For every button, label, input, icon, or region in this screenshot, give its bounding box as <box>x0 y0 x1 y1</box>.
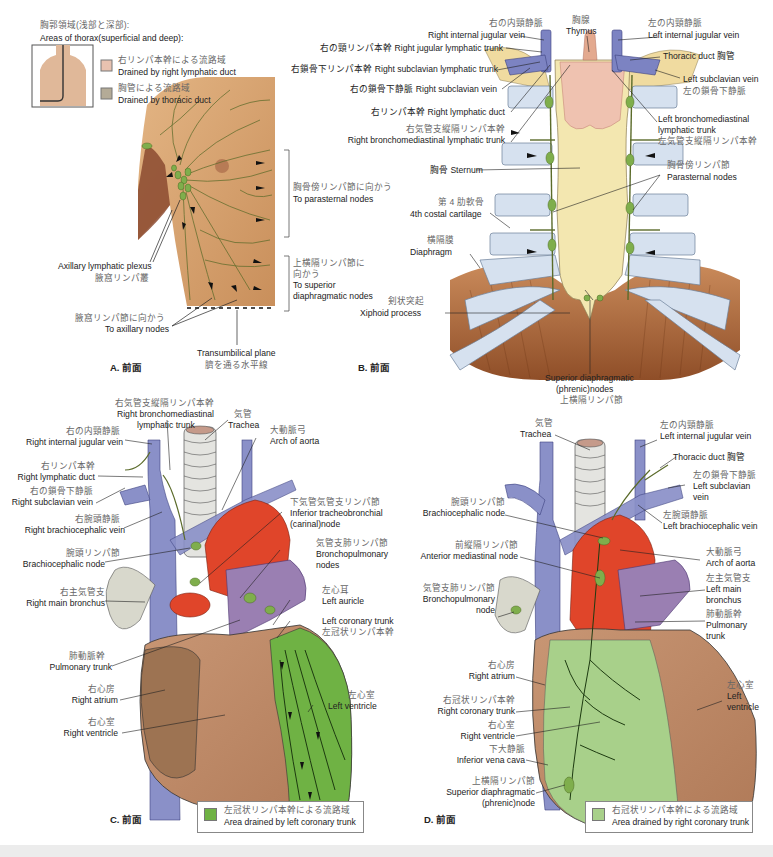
right-subclavian-vein: 右の鎖骨下静脈 Right subclavian vein <box>320 84 497 95</box>
right-coronary-legend-jp: 右冠状リンパ本幹による流路域 <box>612 805 738 816</box>
c-trachea-jp: 気管 <box>234 409 252 420</box>
axillary-nodes-dir-jp: 腋窩リンパ節に向かう <box>75 313 165 324</box>
panel-c-drawing <box>96 420 352 820</box>
c-brachioceph-node-en: Brachiocephalic node <box>5 559 105 570</box>
c-right-lymph-duct-jp: 右リンパ本幹 <box>30 461 95 472</box>
c-left-ventricle-jp: 左心室 <box>348 690 375 701</box>
left-int-jugular-en: Left internal jugular vein <box>648 30 739 41</box>
c-right-int-jugular-en: Right internal jugular vein <box>5 437 123 448</box>
d-brachioceph-node-jp: 腕頭リンパ節 <box>420 497 505 508</box>
sup-diaphragmatic-dir-en1: To superior <box>293 280 336 291</box>
c-right-bronchomed-jp: 右気管支縦隔リンパ本幹 <box>115 398 214 409</box>
d-thoracic-duct: Thoracic duct 胸管 <box>673 452 745 463</box>
d-sup-phrenic-jp: 上横隔リンパ節 <box>455 776 535 787</box>
c-pulm-trunk-en: Pulmonary trunk <box>5 662 112 673</box>
c-right-bronchomed-en2: lymphatic trunk <box>137 420 195 431</box>
d-sup-phrenic-en2: (phrenic)node <box>415 798 535 809</box>
parasternal-dir-jp: 胸骨傍リンパ節に向かう <box>293 182 392 193</box>
c-right-subclavian-jp: 右の鎖骨下静脈 <box>20 486 93 497</box>
c-right-int-jugular-jp: 右の内頸静脈 <box>40 426 120 437</box>
c-inf-tracheo-en1: Inferior tracheobronchial <box>290 508 383 519</box>
panel-a-caption: A. 前面 <box>110 360 142 374</box>
d-left-subclavian-jp: 左の鎖骨下静脈 <box>693 470 756 481</box>
right-coronary-swatch <box>592 808 605 821</box>
c-brachioceph-node-jp: 腕頭リンパ節 <box>40 548 120 559</box>
thymus-jp: 胸腺 <box>572 15 590 26</box>
d-left-int-jugular-en: Left internal jugular vein <box>660 431 751 442</box>
axillary-plexus-label-en: Axillary lymphatic plexus <box>58 261 152 272</box>
c-inf-tracheo-jp: 下気管気管支リンパ節 <box>290 497 380 508</box>
c-right-atrium-en: Right atrium <box>30 695 118 706</box>
c-left-ventricle-en: Left ventricle <box>328 701 377 712</box>
d-right-coronary-en: Right coronary trunk <box>400 706 515 717</box>
d-left-main-bronchus-en1: Left main <box>706 584 741 595</box>
c-left-coronary-en: Left coronary trunk <box>322 616 394 627</box>
legend-right-duct-jp: 右リンパ本幹による流路域 <box>118 55 226 66</box>
d-left-int-jugular-jp: 左の内頸静脈 <box>660 420 714 431</box>
c-right-brachioceph-jp: 右腕頭静脈 <box>40 514 120 525</box>
left-coronary-legend-en: Area drained by left coronary trunk <box>224 817 356 828</box>
axillary-plexus-label-jp: 腋窩リンパ叢 <box>95 273 149 284</box>
thoracic-duct-b: Thoracic duct 胸管 <box>663 51 735 62</box>
parasternal-nodes-en: Parasternal nodes <box>667 172 737 183</box>
panel-b-caption: B. 前面 <box>358 360 390 374</box>
left-bronchomed-en2: lymphatic trunk <box>658 125 716 136</box>
c-inf-tracheo-en2: (carinal)node <box>290 519 340 530</box>
c-bronchopulm-en1: Bronchopulmonary <box>316 549 388 560</box>
diaphragm-en: Diaphragm <box>410 247 452 258</box>
d-ivc-en: Inferior vena cava <box>415 755 525 766</box>
left-coronary-swatch <box>204 808 217 821</box>
superior-phrenic-en2: (phrenic)nodes <box>556 384 613 395</box>
left-subclavian-en: Left subclavian vein <box>683 74 758 85</box>
d-ant-med-en: Anterior mediastinal node <box>390 551 518 562</box>
c-pulm-trunk-jp: 肺動脈幹 <box>45 651 105 662</box>
right-int-jugular-en: Right internal jugular vein <box>405 30 525 41</box>
d-right-ventricle-en: Right ventricle <box>415 731 515 742</box>
panel-c-caption: C. 前面 <box>110 812 142 826</box>
c-right-bronchomed-en1: Right bronchomediastinal <box>117 409 214 420</box>
left-coronary-legend: 左冠状リンパ本幹による流路域 Area drained by left coro… <box>197 801 364 833</box>
c-right-brachioceph-en: Right brachiocephalic vein <box>5 525 125 536</box>
d-left-main-bronchus-en2: bronchus <box>706 595 741 606</box>
left-bronchomed-en1: Left bronchomediastinal <box>658 114 749 125</box>
legend-thoracic-duct-en: Drained by thoracic duct <box>118 95 211 106</box>
sup-diaphragmatic-dir-jp2: 向かう <box>293 269 320 280</box>
right-jugular-trunk: 右の頸リンパ本幹 Right jugular lymphatic trunk <box>305 43 503 54</box>
transumbilical-jp: 臍を通る水平線 <box>205 360 268 371</box>
d-bronchopulm-jp: 気管支肺リンパ節 <box>410 583 495 594</box>
left-bronchomed-jp: 左気管支縦隔リンパ本幹 <box>658 136 757 147</box>
d-right-atrium-en: Right atrium <box>425 671 515 682</box>
left-int-jugular-jp: 左の内頸静脈 <box>648 18 702 29</box>
d-brachioceph-node-en: Brachiocephalic node <box>400 508 505 519</box>
d-right-coronary-jp: 右冠状リンパ本幹 <box>420 695 515 706</box>
d-bronchopulm-en1: Bronchopulmonary <box>410 594 495 605</box>
left-coronary-legend-jp: 左冠状リンパ本幹による流路域 <box>224 805 350 816</box>
d-trachea-en: Trachea <box>520 429 551 440</box>
d-left-ventricle-en1: Left <box>727 691 741 702</box>
legend-thoracic-duct-jp: 胸管による流路域 <box>118 83 190 94</box>
right-coronary-legend-en: Area drained by right coronary trunk <box>612 817 749 828</box>
c-bronchopulm-en2: nodes <box>316 560 339 571</box>
right-int-jugular-jp: 右の内頸静脈 <box>455 18 543 29</box>
d-arch-aorta-en: Arch of aorta <box>706 558 755 569</box>
c-right-ventricle-jp: 右心室 <box>60 717 115 728</box>
right-subclavian-trunk: 右鎖骨下リンパ本幹 Right subclavian lymphatic tru… <box>260 64 498 75</box>
d-trachea-jp: 気管 <box>535 418 553 429</box>
c-left-auricle-jp: 左心耳 <box>322 585 349 596</box>
d-left-subclavian-en2: vein <box>693 492 709 503</box>
xiphoid-en: Xiphoid process <box>360 308 421 319</box>
xiphoid-jp: 剣状突起 <box>388 296 424 307</box>
panel-d-caption: D. 前面 <box>424 812 456 826</box>
d-right-atrium-jp: 右心房 <box>455 660 515 671</box>
page-footer-bar <box>0 845 773 857</box>
c-arch-aorta-en: Arch of aorta <box>270 436 319 447</box>
c-right-main-bronchus-jp: 右主気管支 <box>45 587 105 598</box>
sup-diaphragmatic-dir-jp1: 上横隔リンパ節に <box>293 258 365 269</box>
diaphragm-jp: 横隔膜 <box>427 235 454 246</box>
costal-cartilage-jp: 第 4 肋軟骨 <box>438 197 484 208</box>
right-coronary-legend: 右冠状リンパ本幹による流路域 Area drained by right cor… <box>585 801 753 833</box>
c-right-subclavian-en: Right subclavian vein <box>5 497 93 508</box>
d-ant-med-jp: 前縦隔リンパ節 <box>420 540 518 551</box>
parasternal-nodes-jp: 胸骨傍リンパ節 <box>667 160 730 171</box>
c-trachea-en: Trachea <box>228 420 259 431</box>
